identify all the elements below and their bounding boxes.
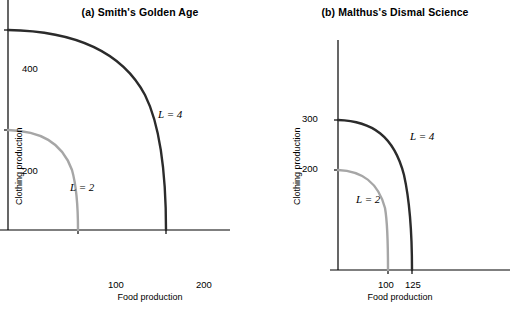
panel-b-x-axis-label: Food production — [330, 292, 470, 302]
panel-b-plot-area — [330, 40, 510, 275]
chart-panel-smith: (a) Smith's Golden Age Clothing producti… — [0, 0, 280, 313]
panel-a-curve-label-l4: L = 4 — [158, 108, 182, 120]
panel-b-xtick-125: 125 — [405, 279, 421, 290]
panel-a-xtick-200: 200 — [196, 279, 212, 290]
panel-a-curve-l4 — [8, 30, 166, 230]
panel-a-x-axis-label: Food production — [60, 292, 240, 302]
panel-b-title: (b) Malthus's Dismal Science — [280, 6, 510, 18]
panel-b-xtick-100: 100 — [378, 279, 394, 290]
panel-a-curve-label-l2: L = 2 — [70, 181, 94, 193]
panel-b-ytick-300: 300 — [302, 113, 318, 124]
panel-b-curve-l2 — [338, 170, 388, 270]
panel-a-ytick-200: 200 — [22, 165, 38, 176]
panel-a-curve-label-l2-text: L = 2 — [70, 181, 94, 193]
panel-a-ytick-400: 400 — [22, 63, 38, 74]
panel-a-title: (a) Smith's Golden Age — [0, 6, 280, 18]
panel-b-curve-l4 — [338, 120, 412, 270]
panel-a-xtick-100: 100 — [108, 279, 124, 290]
panel-a-curve-label-l4-text: L = 4 — [158, 108, 182, 120]
panel-b-y-axis-label: Clothing production — [292, 127, 302, 205]
panel-a-plot-area — [0, 0, 230, 235]
panel-b-ytick-200: 200 — [302, 163, 318, 174]
